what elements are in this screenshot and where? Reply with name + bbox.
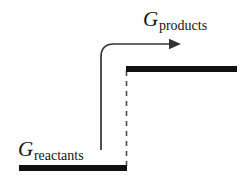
products-subscript: products: [159, 18, 207, 33]
reaction-progress-arrowhead: [169, 39, 181, 49]
products-energy-label: Gproducts: [143, 9, 207, 30]
reactants-symbol: G: [18, 137, 33, 161]
products-energy-level: [126, 66, 237, 72]
reaction-progress-arrow: [101, 44, 172, 150]
reactants-subscript: reactants: [34, 148, 84, 163]
free-energy-diagram: Gproducts Greactants: [0, 0, 249, 189]
reactants-energy-label: Greactants: [18, 139, 83, 160]
products-symbol: G: [143, 7, 158, 31]
reactants-energy-level: [19, 165, 127, 171]
